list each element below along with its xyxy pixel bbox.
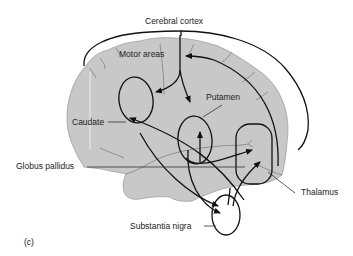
label-cerebral-cortex: Cerebral cortex <box>145 17 203 26</box>
substantia-nigra-nucleus <box>212 195 240 235</box>
label-putamen: Putamen <box>206 93 240 102</box>
label-caudate: Caudate <box>72 118 104 127</box>
label-substantia-nigra: Substantia nigra <box>130 222 191 231</box>
panel-label: (c) <box>24 238 34 247</box>
label-thalamus: Thalamus <box>301 188 338 197</box>
basal-ganglia-diagram <box>0 0 353 256</box>
label-globus-pallidus: Globus pallidus <box>16 162 74 171</box>
label-motor-areas: Motor areas <box>119 50 164 59</box>
